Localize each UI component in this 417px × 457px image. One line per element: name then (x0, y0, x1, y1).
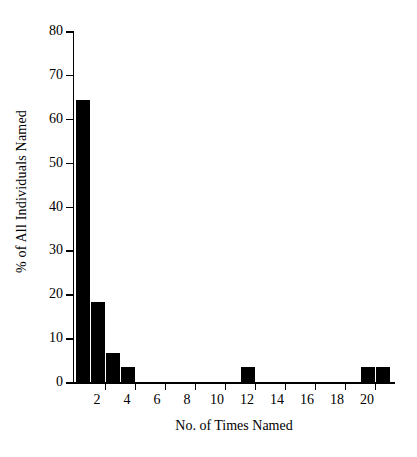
x-tick-label-6: 6 (154, 393, 161, 407)
x-tick-label-14: 14 (270, 393, 284, 407)
bar-21 (376, 367, 389, 382)
y-tick-label-40: 40 (17, 200, 63, 214)
x-tick-16 (315, 382, 317, 390)
bar-12 (241, 367, 254, 382)
bar-4 (121, 367, 134, 382)
x-axis-title: No. of Times Named (73, 418, 395, 434)
bar-series (74, 31, 395, 382)
x-tick-6 (165, 382, 167, 390)
x-tick-12 (255, 382, 257, 390)
x-tick-label-2: 2 (94, 393, 101, 407)
y-tick-40 (66, 207, 73, 209)
y-tick-80 (66, 31, 73, 33)
x-tick-label-12: 12 (240, 393, 254, 407)
y-tick-label-10: 10 (17, 331, 63, 345)
x-tick-14 (285, 382, 287, 390)
bar-1 (76, 100, 89, 382)
y-tick-label-70: 70 (17, 68, 63, 82)
x-tick-8 (195, 382, 197, 390)
y-tick-label-50: 50 (17, 156, 63, 170)
y-tick-10 (66, 338, 73, 340)
x-tick-label-20: 20 (360, 393, 374, 407)
histogram-figure: % of All Individuals Named 0102030405060… (0, 0, 417, 457)
y-tick-label-0: 0 (17, 375, 63, 389)
x-tick-18 (345, 382, 347, 390)
plot-area: 01020304050607080 2468101214161820 (73, 31, 395, 383)
x-tick-10 (225, 382, 227, 390)
x-tick-20 (375, 382, 377, 390)
y-tick-label-80: 80 (17, 24, 63, 38)
y-tick-label-60: 60 (17, 112, 63, 126)
y-tick-0 (66, 382, 73, 384)
x-tick-label-16: 16 (300, 393, 314, 407)
x-tick-label-18: 18 (330, 393, 344, 407)
x-tick-4 (135, 382, 137, 390)
y-tick-30 (66, 250, 73, 252)
y-axis-tick-labels: 01020304050607080 (17, 31, 63, 383)
bar-3 (106, 353, 119, 382)
x-axis-line (73, 382, 395, 384)
y-tick-label-20: 20 (17, 287, 63, 301)
y-tick-50 (66, 163, 73, 165)
y-tick-20 (66, 294, 73, 296)
x-tick-2 (105, 382, 107, 390)
y-tick-60 (66, 119, 73, 121)
y-tick-label-30: 30 (17, 243, 63, 257)
x-tick-label-8: 8 (184, 393, 191, 407)
bar-2 (91, 302, 104, 382)
bar-20 (361, 367, 374, 382)
x-tick-label-10: 10 (210, 393, 224, 407)
y-tick-70 (66, 75, 73, 77)
x-tick-label-4: 4 (124, 393, 131, 407)
